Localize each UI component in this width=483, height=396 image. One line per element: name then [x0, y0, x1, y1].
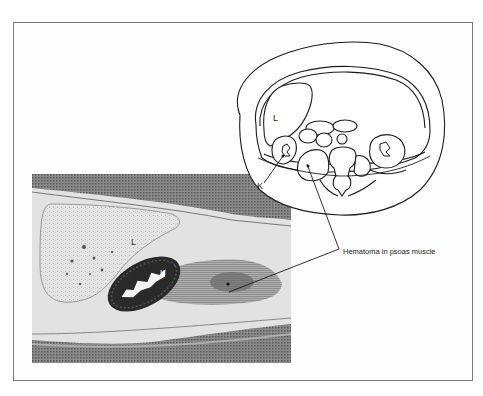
ct-liver-label: L: [131, 238, 136, 247]
schematic-kidney-label: K: [257, 182, 263, 191]
schematic-cross-section: L K: [220, 30, 460, 220]
ct-kidney-label: K: [160, 269, 165, 277]
hematoma-caption: Hematoma in psoas muscle: [343, 247, 436, 256]
schematic-graphic: [220, 30, 460, 220]
schematic-liver-label: L: [273, 114, 278, 123]
